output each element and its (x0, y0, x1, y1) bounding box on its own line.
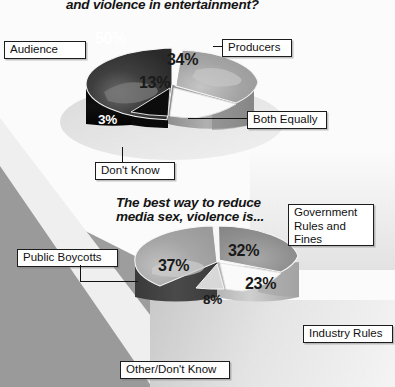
leader-public-boycotts-vertical (80, 265, 81, 282)
callout-industry-rules[interactable]: Industry Rules (303, 325, 393, 343)
callout-government-rules-and-fines[interactable]: Government Rules and Fines (288, 204, 374, 246)
leader-public-boycotts-horizontal (80, 281, 138, 282)
infographic-canvas: and violence in entertainment? 50% 34% 1… (0, 0, 395, 387)
bottom-chart-title: The best way to reduce media sex, violen… (116, 196, 296, 224)
bottom-chart-title-line1: The best way to reduce (116, 195, 261, 210)
callout-public-boycotts[interactable]: Public Boycotts (17, 249, 118, 267)
bottom-pie-value-industry-rules: 23% (245, 275, 276, 293)
bottom-chart-title-line2: media sex, violence is... (116, 209, 264, 224)
bottom-pie-value-government-rules: 32% (228, 242, 259, 260)
callout-other-dont-know[interactable]: Other/Don't Know (120, 361, 230, 379)
bottom-pie-value-public-boycotts: 37% (158, 257, 189, 275)
bottom-pie-value-other-dont-know: 8% (203, 292, 222, 307)
